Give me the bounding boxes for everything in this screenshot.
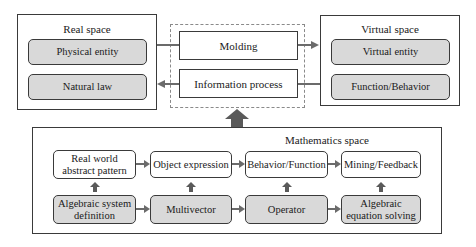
real-space-panel: Real space Physical entity Natural law bbox=[17, 14, 157, 110]
natural-law-box: Natural law bbox=[28, 74, 147, 100]
behavior-function-box: Behavior/Function bbox=[245, 151, 328, 178]
function-behavior-box: Function/Behavior bbox=[331, 74, 450, 100]
arrow-right-icon bbox=[232, 160, 245, 168]
mathematics-space-title: Mathematics space bbox=[213, 134, 441, 147]
arrow-up-icon bbox=[282, 182, 292, 192]
arrow-up-icon bbox=[376, 182, 386, 192]
connector-virtual-to-info bbox=[298, 83, 320, 85]
arrow-right-icon bbox=[328, 160, 341, 168]
information-process-box: Information process bbox=[179, 69, 298, 98]
arrow-up-icon bbox=[90, 182, 100, 192]
arrow-right-icon bbox=[136, 160, 150, 168]
big-up-arrow-icon bbox=[225, 109, 249, 127]
arrow-up-icon bbox=[186, 182, 196, 192]
mining-feedback-box: Mining/Feedback bbox=[341, 151, 421, 178]
connector-real-to-molding bbox=[157, 44, 179, 46]
virtual-space-panel: Virtual space Virtual entity Function/Be… bbox=[320, 15, 460, 106]
connector-molding-to-virtual bbox=[298, 44, 312, 46]
arrow-right-icon bbox=[136, 205, 150, 213]
molding-box: Molding bbox=[179, 31, 298, 60]
arrow-right-icon bbox=[232, 205, 245, 213]
arrow-left-icon bbox=[157, 80, 165, 88]
connector-info-to-real bbox=[165, 83, 179, 85]
arrow-right-icon bbox=[311, 41, 319, 49]
virtual-space-title: Virtual space bbox=[321, 23, 459, 36]
real-space-title: Real space bbox=[18, 23, 156, 36]
algebraic-equation-solving-box: Algebraic equation solving bbox=[341, 195, 421, 224]
object-expression-box: Object expression bbox=[150, 151, 232, 178]
arrow-right-icon bbox=[328, 205, 341, 213]
physical-entity-box: Physical entity bbox=[28, 39, 147, 65]
virtual-entity-box: Virtual entity bbox=[331, 39, 450, 65]
real-world-abstract-pattern-box: Real world abstract pattern bbox=[53, 150, 136, 179]
multivector-box: Multivector bbox=[150, 195, 232, 224]
operator-box: Operator bbox=[245, 195, 328, 224]
algebraic-system-definition-box: Algebraic system definition bbox=[53, 195, 136, 224]
